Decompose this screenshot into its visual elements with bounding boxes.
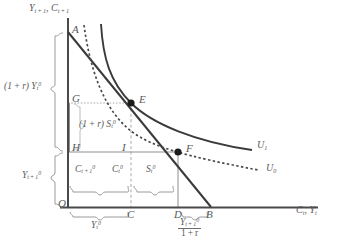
curve-label-u0: U0 (266, 163, 276, 174)
brace-label-left-lower: Yt + 10 (22, 171, 41, 181)
brace-left-upper (51, 33, 63, 151)
curve-label-u1: U1 (257, 140, 267, 151)
indifference-curve-u0 (84, 25, 258, 170)
indifference-curve-u1 (101, 24, 252, 150)
brace-label-y-t-below: Yt0 (91, 221, 101, 231)
brace-label-s-t: St0 (146, 165, 155, 175)
point-marker-E (127, 99, 134, 106)
y-axis-label: Yt + 1, Ct + 1 (29, 3, 69, 14)
diagram-canvas (0, 0, 337, 251)
point-label-C: C (127, 209, 134, 220)
x-axis-label: Ct, Yt (296, 205, 317, 216)
brace-label-c-t: Ct0 (112, 165, 123, 175)
point-label-I: I (122, 142, 126, 153)
point-marker-F (174, 148, 181, 155)
brace-s-t (134, 186, 174, 195)
point-label-A: A (72, 24, 79, 35)
fraction-denominator: 1 + r (178, 229, 201, 239)
brace-label-left-upper: (1 + r) Yt0 (4, 82, 41, 92)
brace-y-t-below (70, 212, 129, 220)
brace-label-inner-vertical: (1 + r) St0 (79, 120, 116, 130)
brace-row-upper (70, 186, 174, 195)
point-label-B: B (206, 209, 213, 220)
fraction-discounted-income: Yt + 10 1 + r (178, 218, 201, 239)
consumption-saving-diagram: Yt + 1, Ct + 1 Ct, Yt O A E F G H I C D … (0, 0, 337, 251)
origin-label: O (58, 198, 66, 209)
point-label-F: F (186, 143, 193, 154)
point-label-G: G (72, 93, 80, 104)
point-label-E: E (139, 94, 146, 105)
point-label-H: H (72, 142, 80, 153)
brace-label-discounted-income: Yt + 10 1 + r (178, 218, 201, 239)
brace-c-t-plus-1 (70, 186, 129, 195)
brace-label-c-t-plus-1: Ct + 10 (75, 165, 95, 175)
